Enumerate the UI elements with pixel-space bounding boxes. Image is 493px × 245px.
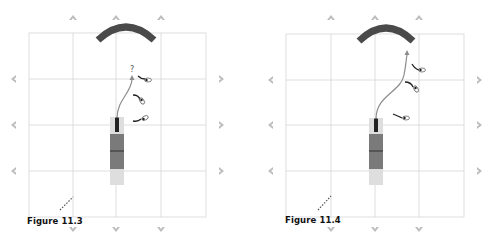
up-arrow-icon [69, 15, 165, 20]
base-block [110, 117, 124, 185]
figure-panel-11-3: ? Figure 11.3 [0, 0, 246, 245]
observer-icon [133, 115, 149, 122]
observer-icon [133, 95, 145, 105]
diagram-canvas: ? [0, 0, 246, 245]
trajectory-arrowhead-icon [130, 75, 135, 80]
figure-caption: Figure 11.4 [285, 215, 341, 225]
observer-icon [393, 114, 410, 120]
down-arrow-icon [327, 227, 423, 232]
figure-caption: Figure 11.3 [27, 216, 83, 226]
dotted-line [60, 197, 73, 210]
left-arrow-icon [11, 75, 16, 175]
question-mark-label: ? [130, 65, 134, 74]
diagram-canvas [246, 0, 493, 245]
up-arrow-icon [327, 15, 423, 20]
target-arc [98, 27, 154, 40]
right-arrow-icon [219, 75, 224, 175]
down-arrow-icon [69, 227, 165, 232]
right-arrow-icon [477, 76, 482, 175]
target-arc [359, 28, 413, 41]
trajectory-path [376, 55, 407, 119]
left-arrow-icon [268, 76, 273, 175]
figure-panel-11-4: Figure 11.4 [246, 0, 492, 245]
observer-icon [405, 82, 419, 93]
trajectory-arrowhead-icon [405, 50, 410, 55]
dotted-line [318, 196, 331, 210]
trajectory-path [117, 79, 132, 118]
base-block [369, 118, 383, 185]
